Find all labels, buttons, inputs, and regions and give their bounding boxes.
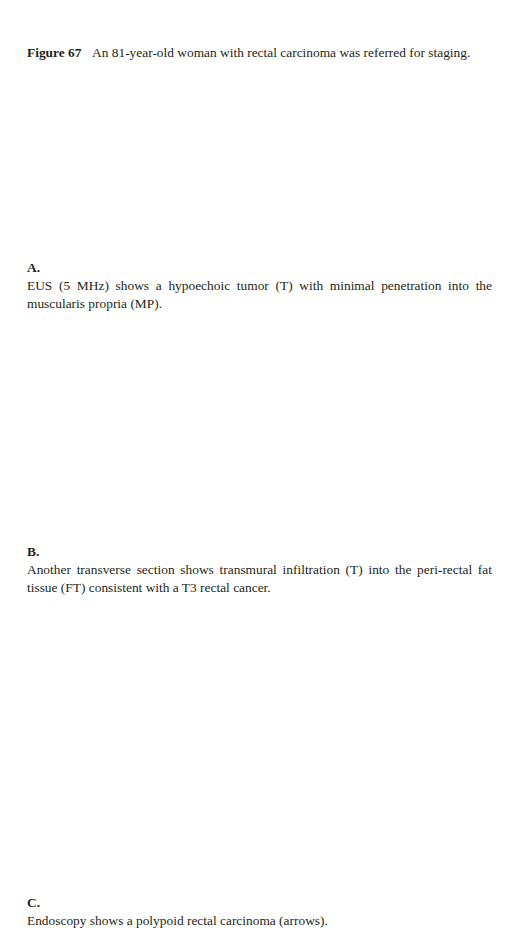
subfigure-a-label: A.: [27, 259, 492, 277]
figure-caption-text: An 81-year-old woman with rectal carcino…: [92, 45, 470, 60]
subfigure-b-text: Another transverse section shows transmu…: [27, 562, 492, 595]
figure-label: Figure 67: [27, 45, 81, 60]
subfigure-a-caption: A. EUS (5 MHz) shows a hypoechoic tumor …: [27, 259, 492, 313]
subfigure-b-caption: B. Another transverse section shows tran…: [27, 543, 492, 597]
subfigure-c-text: Endoscopy shows a polypoid rectal carcin…: [27, 913, 328, 928]
subfigure-a-text: EUS (5 MHz) shows a hypoechoic tumor (T)…: [27, 278, 492, 311]
figure-image-c: [27, 610, 492, 890]
figure-caption: Figure 67 An 81-year-old woman with rect…: [27, 44, 492, 62]
figure-image-b: [27, 320, 492, 535]
subfigure-c-label: C.: [27, 894, 492, 912]
subfigure-c-caption: C. Endoscopy shows a polypoid rectal car…: [27, 894, 492, 930]
subfigure-b-label: B.: [27, 543, 492, 561]
figure-image-a: [27, 90, 492, 255]
